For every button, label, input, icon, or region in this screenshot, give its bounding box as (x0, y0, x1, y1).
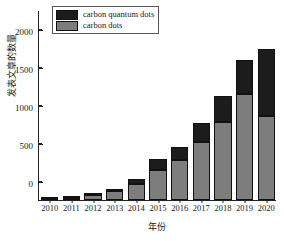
bar-segment-carbon-dots (236, 94, 253, 200)
x-axis-tick-mark (71, 200, 72, 203)
y-axis-minor-tick-mark (39, 181, 42, 182)
legend-label-carbon-quantum-dots: carbon quantum dots (83, 10, 154, 19)
bar-segment-carbon-quantum-dots (128, 179, 145, 184)
x-axis-tick-mark (201, 200, 202, 203)
bar-segment-carbon-dots (128, 184, 145, 200)
x-axis-tick-mark (50, 200, 51, 203)
bar-2018 (214, 96, 231, 201)
x-axis-tick-label: 2013 (106, 204, 123, 213)
y-axis-tick-label: 0 (29, 180, 40, 189)
chart-legend: carbon quantum dots carbon dots (52, 6, 159, 34)
bar-segment-carbon-quantum-dots (236, 60, 253, 93)
y-axis-tick-mark (39, 30, 43, 31)
bar-segment-carbon-dots (214, 122, 231, 200)
bar-segment-carbon-quantum-dots (63, 196, 80, 198)
bar-segment-carbon-quantum-dots (171, 147, 188, 160)
x-axis-tick-mark (180, 200, 181, 203)
y-axis-minor-tick-mark (39, 143, 42, 144)
y-axis-tick-mark (39, 68, 43, 69)
y-axis-tick-label: 1500 (15, 66, 39, 75)
bar-2016 (171, 147, 188, 200)
x-axis-tick-mark (136, 200, 137, 203)
legend-item-carbon-quantum-dots: carbon quantum dots (56, 9, 154, 20)
bar-segment-carbon-dots (193, 142, 210, 200)
y-axis-tick-mark (39, 106, 43, 107)
x-axis-tick: 2013 (106, 200, 123, 213)
x-axis-tick-label: 2017 (193, 204, 210, 213)
bar-2015 (149, 159, 166, 200)
bar-segment-carbon-quantum-dots (258, 49, 275, 116)
x-axis-tick-label: 2010 (41, 204, 58, 213)
y-axis-tick-mark (39, 182, 43, 183)
x-axis-tick-mark (266, 200, 267, 203)
x-axis-tick: 2020 (258, 200, 275, 213)
x-axis-tick-label: 2014 (128, 204, 145, 213)
bar-2013 (106, 189, 123, 200)
x-axis-tick: 2017 (193, 200, 210, 213)
x-axis-tick: 2019 (236, 200, 253, 213)
bar-2020 (258, 49, 275, 200)
legend-item-carbon-dots: carbon dots (56, 20, 154, 31)
x-axis-tick: 2014 (128, 200, 145, 213)
x-axis-tick-label: 2018 (214, 204, 231, 213)
y-axis-tick: 1000 (15, 97, 39, 115)
bar-segment-carbon-dots (258, 116, 275, 200)
y-axis-tick: 0 (29, 173, 40, 191)
bar-chart: 发表文章的数量 05001000150020002500201020112012… (0, 0, 284, 241)
plot-area: 0500100015002000250020102011201220132014… (38, 11, 276, 201)
x-axis-tick-label: 2016 (171, 204, 188, 213)
x-axis-tick-mark (158, 200, 159, 203)
bar-2019 (236, 60, 253, 200)
x-axis-tick: 2016 (171, 200, 188, 213)
y-axis-minor-tick-mark (39, 105, 42, 106)
y-axis-tick: 2000 (15, 21, 39, 39)
x-axis-tick-label: 2012 (85, 204, 102, 213)
x-axis-tick-label: 2011 (63, 204, 80, 213)
x-axis-tick: 2015 (150, 200, 167, 213)
y-axis-tick-label: 500 (20, 142, 40, 151)
legend-swatch-carbon-dots (56, 21, 78, 31)
y-axis-minor-tick-mark (39, 67, 42, 68)
bar-segment-carbon-quantum-dots (193, 123, 210, 142)
legend-label-carbon-dots: carbon dots (83, 21, 122, 30)
x-axis-tick-label: 2020 (258, 204, 275, 213)
x-axis-tick-label: 2019 (236, 204, 253, 213)
bar-segment-carbon-dots (106, 191, 123, 200)
y-axis-tick-label: 1000 (15, 104, 39, 113)
x-axis-tick-mark (93, 200, 94, 203)
y-axis-tick: 500 (20, 135, 40, 153)
bar-2014 (128, 179, 145, 200)
y-axis-tick: 1500 (15, 59, 39, 77)
bar-segment-carbon-quantum-dots (214, 96, 231, 122)
y-axis-minor-tick-mark (39, 29, 42, 30)
x-axis-tick-mark (223, 200, 224, 203)
legend-swatch-carbon-quantum-dots (56, 10, 78, 20)
y-axis-tick: 2500 (15, 0, 39, 1)
y-axis-tick-label: 2000 (15, 28, 39, 37)
x-axis-tick: 2018 (214, 200, 231, 213)
bar-segment-carbon-quantum-dots (84, 193, 101, 195)
x-axis-tick-mark (245, 200, 246, 203)
x-axis-tick: 2010 (41, 200, 58, 213)
x-axis-tick: 2012 (85, 200, 102, 213)
x-axis-tick-mark (115, 200, 116, 203)
x-axis-tick-label: 2015 (150, 204, 167, 213)
y-axis-tick-mark (39, 144, 43, 145)
bar-segment-carbon-dots (171, 160, 188, 200)
x-axis-tick: 2011 (63, 200, 80, 213)
bar-segment-carbon-dots (149, 170, 166, 200)
bar-2017 (193, 123, 210, 200)
bar-segment-carbon-quantum-dots (149, 159, 166, 170)
x-axis-title: 年份 (38, 222, 276, 232)
bar-segment-carbon-quantum-dots (106, 189, 123, 191)
